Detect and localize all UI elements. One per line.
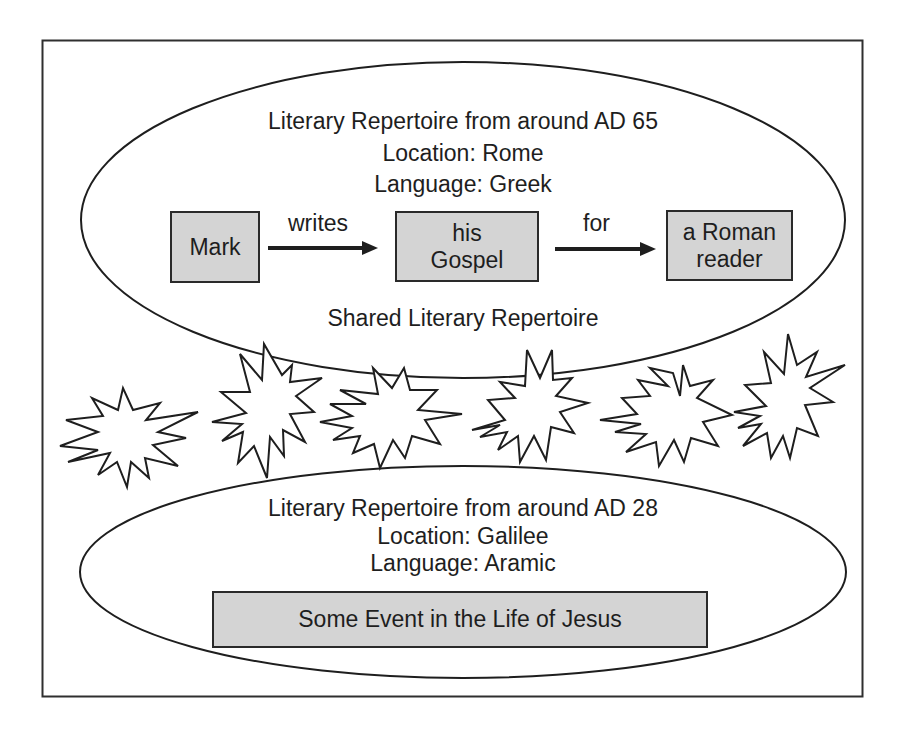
lower-repertoire-title: Literary Repertoire from around AD 28 xyxy=(180,495,746,522)
node-his-gospel: his Gospel xyxy=(395,211,539,282)
upper-repertoire-title: Literary Repertoire from around AD 65 xyxy=(180,108,746,135)
upper-repertoire-location: Location: Rome xyxy=(180,140,746,167)
node-roman-reader-line2: reader xyxy=(696,246,762,273)
event-box: Some Event in the Life of Jesus xyxy=(212,591,708,648)
shared-repertoire-label: Shared Literary Repertoire xyxy=(180,305,746,332)
starburst-icon xyxy=(472,350,588,462)
edge-label-writes: writes xyxy=(288,210,348,237)
node-his-gospel-line1: his xyxy=(452,220,481,247)
starburst-icon xyxy=(320,368,462,468)
upper-repertoire-language: Language: Greek xyxy=(180,171,746,198)
node-mark: Mark xyxy=(170,211,260,283)
node-mark-label: Mark xyxy=(189,234,240,261)
starburst-icon xyxy=(734,334,845,458)
lower-repertoire-language: Language: Aramic xyxy=(180,550,746,577)
edge-label-for: for xyxy=(583,210,610,237)
node-his-gospel-line2: Gospel xyxy=(431,247,504,274)
lower-repertoire-location: Location: Galilee xyxy=(180,523,746,550)
arrow-for xyxy=(555,242,656,256)
node-roman-reader: a Roman reader xyxy=(666,210,793,281)
starburst-icon xyxy=(600,365,732,466)
arrow-writes xyxy=(268,241,378,255)
event-label: Some Event in the Life of Jesus xyxy=(298,606,621,633)
node-roman-reader-line1: a Roman xyxy=(683,219,776,246)
starburst-icon xyxy=(60,388,198,487)
